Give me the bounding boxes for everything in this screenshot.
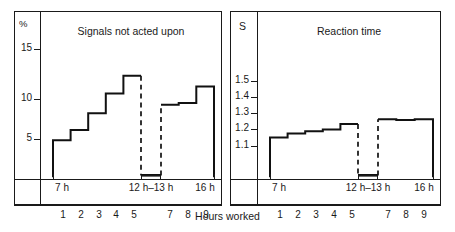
panel-signals-not-acted-upon: % 15 10 5 xyxy=(14,11,222,206)
y-axis-unit-label: % xyxy=(19,19,27,29)
plot-area-reaction xyxy=(258,12,440,205)
hour-band-divider xyxy=(15,204,221,205)
step-chart-signals xyxy=(41,12,221,205)
y-tick-line xyxy=(251,113,257,114)
step-line-morning xyxy=(53,76,141,178)
hour-band-divider xyxy=(231,204,440,205)
x-label-lunch-break: 12 h–13 h xyxy=(346,183,391,193)
figure-root: % 15 10 5 xyxy=(0,0,455,232)
step-line-morning xyxy=(270,124,358,177)
x-tick-7h xyxy=(270,174,271,179)
y-axis-gutter-left: % 15 10 5 xyxy=(15,12,41,205)
x-label-7h: 7 h xyxy=(55,183,69,193)
hour-label-band-right: 7 h 12 h–13 h 16 h 1 2 3 4 5 7 8 9 xyxy=(231,179,440,205)
y-axis-gutter-right: S 1.5 1.4 1.3 1.2 1.1 xyxy=(231,12,258,205)
x-tick-16h xyxy=(214,174,215,179)
y-axis-unit-label: S xyxy=(239,21,246,32)
y-tick-line xyxy=(34,99,40,100)
figure-caption: Hours worked xyxy=(0,211,455,222)
panel-title-reaction: Reaction time xyxy=(258,26,440,37)
y-tick-line xyxy=(34,49,40,50)
y-tick-line xyxy=(251,146,257,147)
x-tick-7h xyxy=(53,174,54,179)
y-tick-line xyxy=(34,139,40,140)
step-line-afternoon xyxy=(378,119,433,177)
panel-reaction-time: S 1.5 1.4 1.3 1.2 1.1 xyxy=(230,11,441,206)
x-label-7h: 7 h xyxy=(272,183,286,193)
plot-area-signals xyxy=(41,12,221,205)
panel-title-signals: Signals not acted upon xyxy=(41,26,221,37)
y-tick-line xyxy=(251,81,257,82)
step-chart-reaction xyxy=(258,12,440,205)
step-line-afternoon xyxy=(161,86,214,177)
y-tick-line xyxy=(251,97,257,98)
x-label-16h: 16 h xyxy=(195,183,214,193)
x-label-16h: 16 h xyxy=(414,183,433,193)
y-tick-line xyxy=(251,129,257,130)
x-label-lunch-break: 12 h–13 h xyxy=(129,183,174,193)
x-break-bracket xyxy=(358,175,378,179)
hour-label-band-left: 7 h 12 h–13 h 16 h 1 2 3 4 5 7 8 9 xyxy=(15,179,221,205)
x-tick-16h xyxy=(433,174,434,179)
x-break-bracket xyxy=(141,175,161,179)
